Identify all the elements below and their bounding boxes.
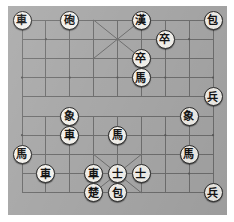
xiangqi-app: 車砲漢包卒卒馬兵象象車馬馬馬車車士士楚包兵 xyxy=(0,0,234,222)
piece-soldier[interactable]: 兵 xyxy=(204,183,223,202)
piece-glyph: 士 xyxy=(136,168,147,179)
piece-glyph: 包 xyxy=(207,14,218,25)
piece-soldier[interactable]: 卒 xyxy=(156,30,175,49)
board-surface[interactable]: 車砲漢包卒卒馬兵象象車馬馬馬車車士士楚包兵 xyxy=(8,6,227,215)
piece-soldier[interactable]: 卒 xyxy=(132,49,151,68)
piece-glyph: 馬 xyxy=(112,130,123,141)
piece-glyph: 象 xyxy=(64,110,75,121)
piece-glyph: 馬 xyxy=(184,149,195,160)
piece-glyph: 兵 xyxy=(207,91,218,102)
piece-glyph: 砲 xyxy=(64,14,75,25)
piece-glyph: 楚 xyxy=(88,187,99,198)
piece-cannon[interactable]: 包 xyxy=(204,11,223,30)
piece-glyph: 馬 xyxy=(16,149,27,160)
piece-glyph: 卒 xyxy=(136,53,147,64)
piece-glyph: 兵 xyxy=(207,187,218,198)
piece-glyph: 漢 xyxy=(136,14,147,25)
piece-advisor[interactable]: 士 xyxy=(108,164,127,183)
piece-glyph: 卒 xyxy=(160,34,171,45)
piece-elephant[interactable]: 象 xyxy=(60,107,79,126)
piece-soldier[interactable]: 兵 xyxy=(204,87,223,106)
piece-elephant[interactable]: 象 xyxy=(180,107,199,126)
piece-horse[interactable]: 馬 xyxy=(132,68,151,87)
piece-glyph: 車 xyxy=(64,130,75,141)
piece-glyph: 馬 xyxy=(136,72,147,83)
piece-glyph: 象 xyxy=(184,110,195,121)
piece-cannon[interactable]: 砲 xyxy=(60,11,79,30)
piece-glyph: 包 xyxy=(112,187,123,198)
piece-advisor[interactable]: 士 xyxy=(132,164,151,183)
piece-chariot[interactable]: 車 xyxy=(60,126,79,145)
piece-horse[interactable]: 馬 xyxy=(13,145,32,164)
piece-glyph: 車 xyxy=(88,168,99,179)
piece-glyph: 車 xyxy=(40,168,51,179)
piece-glyph: 士 xyxy=(112,168,123,179)
piece-chariot[interactable]: 車 xyxy=(13,11,32,30)
piece-horse[interactable]: 馬 xyxy=(180,145,199,164)
piece-general-han[interactable]: 漢 xyxy=(132,11,151,30)
piece-horse[interactable]: 馬 xyxy=(108,126,127,145)
piece-glyph: 車 xyxy=(16,14,27,25)
